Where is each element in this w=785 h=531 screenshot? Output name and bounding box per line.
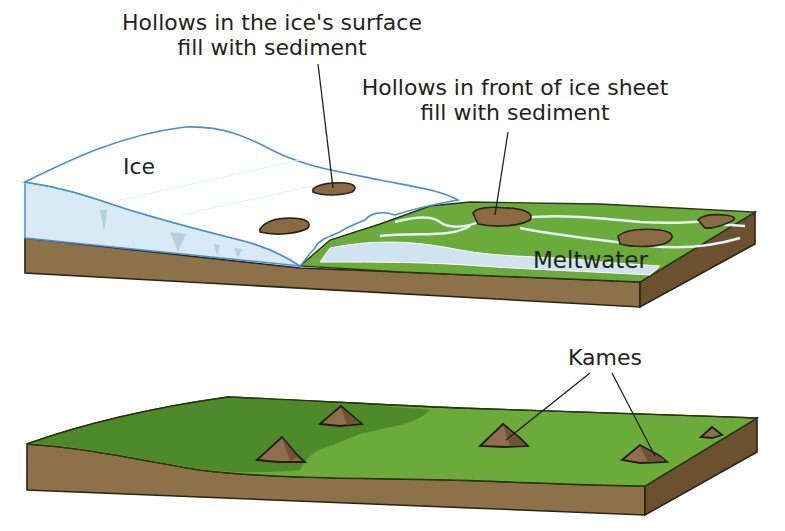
label-hollows-front-line1: Hollows in front of ice sheet [362, 75, 669, 100]
kame-formation-diagram: Hollows in the ice's surface fill with s… [0, 0, 785, 531]
sediment-hollow-ice-1 [313, 183, 355, 195]
sediment-hollow-front-1 [473, 207, 531, 226]
label-hollows-front-line2: fill with sediment [420, 100, 610, 125]
label-hollows-ice-line1: Hollows in the ice's surface [122, 10, 422, 35]
top-panel-ice-sheet: Hollows in the ice's surface fill with s… [25, 10, 755, 307]
label-kames: Kames [568, 345, 642, 370]
label-meltwater: Meltwater [533, 247, 648, 273]
label-ice: Ice [123, 154, 155, 179]
sediment-hollow-front-2 [618, 229, 672, 246]
label-hollows-ice-line2: fill with sediment [177, 35, 367, 60]
bottom-panel-kames: Kames [27, 345, 757, 515]
